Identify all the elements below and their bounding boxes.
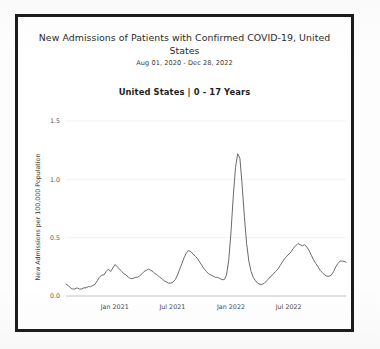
x-axis-ticks: Jan 2021Jul 2021Jan 2022Jul 2022 (100, 303, 302, 311)
x-tick-label: Jul 2021 (158, 303, 185, 311)
chart-subtitle-date-range: Aug 01, 2020 - Dec 28, 2022 (18, 59, 351, 67)
y-axis-ticks: 0.00.51.01.5 (50, 117, 60, 299)
y-tick-label: 1.5 (50, 117, 60, 124)
y-tick-label: 0.0 (50, 292, 60, 299)
y-axis-label: New Admissions per 100,000 Population (34, 154, 42, 281)
x-tick-label: Jul 2022 (275, 303, 302, 311)
plot-area: 0.00.51.01.5 Jan 2021Jul 2021Jan 2022Jul… (18, 105, 351, 329)
panel-heading-age-group: United States | 0 - 17 Years (18, 87, 351, 97)
chart-title: New Admissions of Patients with Confirme… (18, 31, 351, 57)
x-tick-label: Jan 2022 (216, 303, 245, 311)
chart-card: New Admissions of Patients with Confirme… (18, 17, 351, 329)
line-chart-svg: 0.00.51.01.5 Jan 2021Jul 2021Jan 2022Jul… (18, 105, 351, 329)
x-tick-label: Jan 2021 (100, 303, 129, 311)
title-block: New Admissions of Patients with Confirme… (18, 31, 351, 67)
y-tick-label: 1.0 (50, 176, 60, 183)
screenshot-root: New Admissions of Patients with Confirme… (0, 0, 380, 349)
y-tick-label: 0.5 (50, 234, 60, 241)
series-line-0-17-years (66, 154, 346, 289)
